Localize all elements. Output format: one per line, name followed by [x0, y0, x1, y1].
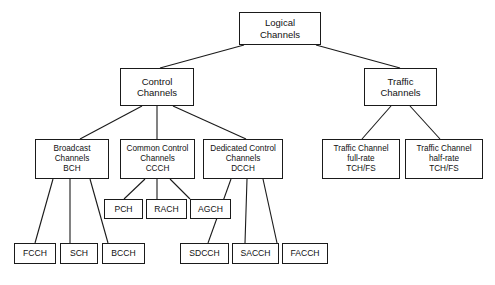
node-tch-full-line1: Traffic Channel: [333, 144, 388, 154]
edge-dcch-to-facch: [263, 179, 277, 243]
node-traffic-channels-line2: Channels: [380, 87, 420, 98]
node-broadcast-channels-bch[interactable]: Broadcast Channels BCH: [35, 139, 109, 179]
edge-control-to-dcch: [173, 106, 246, 139]
edge-dcch-to-sacch: [245, 179, 247, 243]
node-sch[interactable]: SCH: [60, 243, 98, 264]
node-bch-line3: BCH: [63, 164, 80, 174]
node-dcch-line1: Dedicated Control: [210, 144, 276, 154]
node-fcch-label: FCCH: [23, 248, 47, 258]
node-tch-full-line2: full-rate: [347, 154, 374, 164]
node-dedicated-control-channels-dcch[interactable]: Dedicated Control Channels DCCH: [203, 139, 283, 179]
node-ccch-line2: Channels: [140, 154, 175, 164]
node-common-control-channels-ccch[interactable]: Common Control Channels CCCH: [120, 139, 195, 179]
node-traffic-channels-line1: Traffic: [388, 76, 414, 87]
node-logical-channels-line1: Logical: [265, 17, 295, 28]
node-traffic-channel-half-rate[interactable]: Traffic Channel half-rate TCH/FS: [405, 139, 483, 179]
node-control-channels-line2: Channels: [137, 87, 177, 98]
node-bcch-label: BCCH: [111, 248, 135, 258]
node-logical-channels-line2: Channels: [260, 29, 300, 40]
node-rach-label: RACH: [154, 204, 178, 214]
node-rach[interactable]: RACH: [146, 199, 187, 219]
node-pch-label: PCH: [114, 204, 132, 214]
node-tch-full-line3: TCH/FS: [346, 164, 376, 174]
edge-control-to-bch: [80, 106, 142, 139]
node-traffic-channel-full-rate[interactable]: Traffic Channel full-rate TCH/FS: [322, 139, 400, 179]
node-dcch-line2: Channels: [226, 154, 261, 164]
node-bcch[interactable]: BCCH: [102, 243, 145, 264]
node-dcch-line3: DCCH: [231, 164, 255, 174]
node-sacch[interactable]: SACCH: [232, 243, 279, 264]
node-control-channels[interactable]: Control Channels: [120, 68, 194, 106]
edge-traffic-to-halfrate: [410, 106, 440, 139]
node-ccch-line1: Common Control: [127, 144, 189, 154]
node-traffic-channels[interactable]: Traffic Channels: [364, 68, 437, 106]
node-agch[interactable]: AGCH: [190, 199, 231, 219]
node-ccch-line3: CCCH: [146, 164, 170, 174]
node-pch[interactable]: PCH: [104, 199, 143, 219]
node-facch[interactable]: FACCH: [282, 243, 328, 264]
node-tch-half-line3: TCH/FS: [429, 164, 459, 174]
edge-logical-to-control: [160, 45, 244, 68]
node-sch-label: SCH: [70, 248, 88, 258]
edge-traffic-to-fullrate: [362, 106, 391, 139]
node-sdcch-label: SDCCH: [189, 248, 220, 258]
edge-bch-to-fcch: [35, 179, 53, 243]
node-facch-label: FACCH: [290, 248, 319, 258]
node-agch-label: AGCH: [198, 204, 223, 214]
node-fcch[interactable]: FCCH: [14, 243, 56, 264]
node-bch-line2: Channels: [55, 154, 90, 164]
node-tch-half-line2: half-rate: [429, 154, 459, 164]
node-sdcch[interactable]: SDCCH: [180, 243, 229, 264]
edge-ccch-to-pch: [124, 179, 145, 199]
node-bch-line1: Broadcast: [54, 144, 91, 154]
node-sacch-label: SACCH: [240, 248, 270, 258]
node-control-channels-line1: Control: [142, 76, 173, 87]
logical-channels-diagram: Logical Channels Control Channels Traffi…: [0, 0, 495, 285]
edge-logical-to-traffic: [316, 45, 400, 68]
edge-ccch-to-agch: [170, 179, 190, 199]
node-tch-half-line1: Traffic Channel: [416, 144, 471, 154]
node-logical-channels[interactable]: Logical Channels: [239, 12, 321, 45]
